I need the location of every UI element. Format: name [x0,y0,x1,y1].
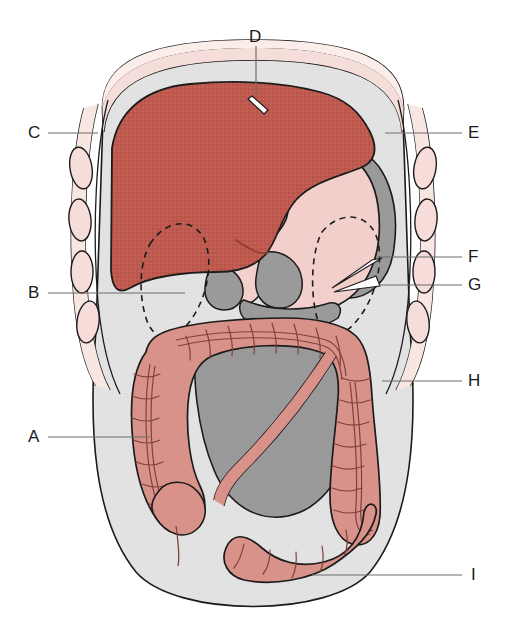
label-i: I [471,566,476,583]
label-c: C [28,124,40,141]
label-g: G [468,276,481,293]
anatomy-figure: A B C D E F G H I [0,0,507,638]
label-a: A [28,428,39,445]
label-d: D [249,28,261,45]
label-f: F [468,248,478,265]
label-b: B [28,284,39,301]
anatomy-diagram-svg [0,0,507,638]
label-h: H [468,372,480,389]
label-e: E [468,124,479,141]
